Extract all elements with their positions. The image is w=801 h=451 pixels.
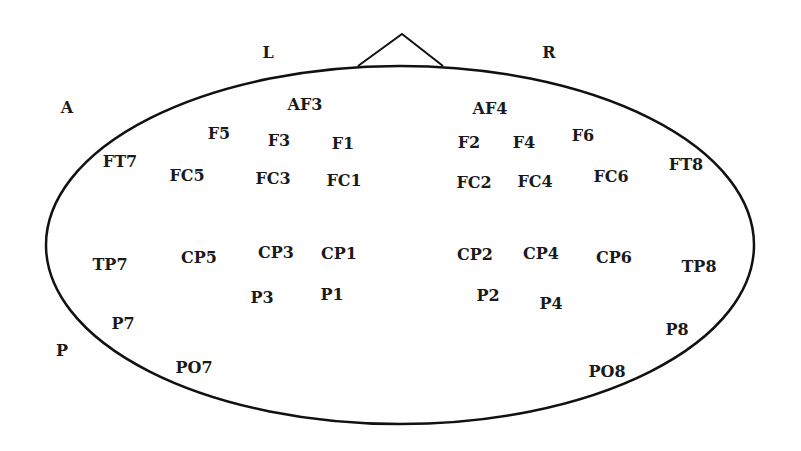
electrode-label-p8: P8: [665, 322, 688, 338]
electrode-label-fc4: FC4: [517, 174, 552, 190]
electrode-label-af3: AF3: [288, 97, 323, 113]
electrode-label-p2: P2: [476, 288, 499, 304]
electrode-label-po7: PO7: [175, 360, 212, 376]
electrode-label-p7: P7: [111, 316, 134, 332]
electrode-label-fc6: FC6: [593, 169, 628, 185]
electrode-label-af4: AF4: [473, 101, 508, 117]
electrode-label-fc1: FC1: [326, 173, 361, 189]
electrode-label-tp8: TP8: [681, 259, 716, 275]
electrode-label-p4: P4: [539, 296, 562, 312]
electrode-label-f5: F5: [208, 126, 231, 142]
electrode-label-cp1: CP1: [321, 246, 357, 262]
nose-icon: [358, 34, 443, 66]
electrode-label-fc3: FC3: [255, 171, 290, 187]
orientation-label-l: L: [262, 45, 273, 61]
electrode-label-f6: F6: [572, 128, 595, 144]
electrode-label-ft8: FT8: [669, 157, 703, 173]
electrode-label-cp2: CP2: [457, 247, 493, 263]
electrode-label-f2: F2: [458, 135, 481, 151]
electrode-label-cp6: CP6: [596, 250, 632, 266]
electrode-label-cp4: CP4: [523, 246, 559, 262]
head-ellipse: [46, 66, 754, 424]
electrode-label-p1: P1: [320, 287, 343, 303]
electrode-label-fc5: FC5: [169, 168, 204, 184]
electrode-label-ft7: FT7: [103, 154, 137, 170]
electrode-label-fc2: FC2: [456, 175, 491, 191]
electrode-label-p3: P3: [250, 290, 273, 306]
electrode-label-cp3: CP3: [258, 245, 294, 261]
electrode-label-tp7: TP7: [92, 257, 127, 273]
orientation-label-r: R: [542, 45, 555, 61]
eeg-electrode-diagram: LRAPAF3AF4F5F3F1F2F4F6FT7FT8FC5FC3FC1FC2…: [0, 0, 801, 451]
electrode-label-f4: F4: [513, 135, 536, 151]
electrode-label-f3: F3: [268, 133, 291, 149]
orientation-label-p: P: [56, 343, 68, 359]
electrode-label-f1: F1: [332, 136, 355, 152]
electrode-label-cp5: CP5: [181, 250, 217, 266]
head-outline: [0, 0, 801, 451]
orientation-label-a: A: [61, 100, 73, 116]
electrode-label-po8: PO8: [588, 364, 625, 380]
